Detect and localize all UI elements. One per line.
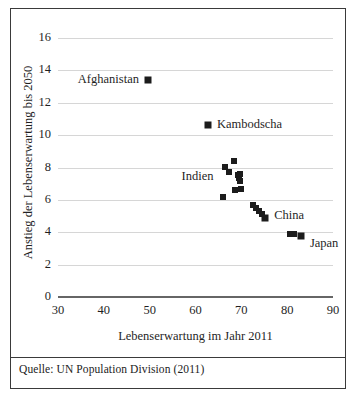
gridline-y-12 [58,103,333,104]
annotation-indien: Indien [182,169,214,184]
data-point-18 [291,231,297,237]
x-axis-title: Lebenserwartung im Jahr 2011 [58,329,333,344]
gridline-y-16 [58,38,333,39]
data-point-5 [231,158,237,164]
data-point-kambodscha [204,122,211,129]
x-tick-label-40: 40 [86,303,122,318]
source-note: Quelle: UN Population Division (2011) [19,363,204,375]
data-point-japan [297,233,304,240]
annotation-japan: Japan [310,236,338,251]
x-axis-baseline [58,296,333,298]
annotation-kambodscha: Kambodscha [217,117,282,132]
y-axis-title: Anstieg der Lebenserwartung bis 2050 [21,38,36,288]
y-tick-label-0: 0 [11,289,51,304]
gridline-y-6 [58,200,333,201]
data-point-afghanistan [144,77,151,84]
data-point-9 [237,178,243,184]
annotation-china: China [274,208,304,223]
source-divider [10,357,346,358]
gridline-y-2 [58,265,333,266]
data-point-china [262,214,269,221]
x-tick-label-30: 30 [40,303,76,318]
data-point-11 [238,186,244,192]
data-point-10 [237,171,243,177]
x-tick-label-60: 60 [178,303,214,318]
x-tick-label-80: 80 [269,303,305,318]
scatter-chart-figure: 0246810121416 30405060708090 Lebenserwar… [0,0,358,397]
data-point-4 [226,169,232,175]
x-tick-label-90: 90 [315,303,351,318]
data-point-2 [220,194,226,200]
x-tick-label-70: 70 [223,303,259,318]
annotation-afghanistan: Afghanistan [78,72,139,87]
gridline-y-10 [58,135,333,136]
x-tick-label-50: 50 [132,303,168,318]
